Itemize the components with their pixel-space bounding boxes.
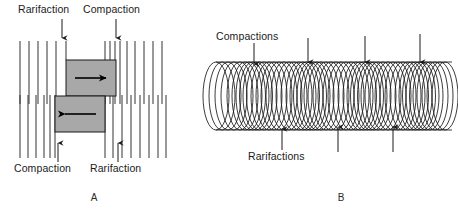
- panel-b-caption: B: [338, 192, 345, 203]
- coil-ring: [427, 62, 453, 130]
- compression-block-lower: [55, 96, 105, 132]
- panel-a-top-right-label: Compaction: [83, 3, 140, 15]
- compression-block-upper: [66, 60, 116, 96]
- panel-a-bottom-arrows: [58, 143, 118, 162]
- coil-ring: [276, 62, 302, 130]
- coil-ring: [375, 62, 401, 130]
- coil-ring: [385, 62, 411, 130]
- coil-ring: [251, 62, 277, 130]
- panel-b-compactions-label: Compactions: [216, 30, 278, 42]
- panel-b-rarifactions-label: Rarifactions: [248, 150, 305, 162]
- coil-ring: [333, 62, 359, 130]
- panel-a-bottom-right-label: Rarifaction: [90, 162, 141, 174]
- spring-coil: [203, 62, 458, 130]
- panel-a-top-arrows: [62, 19, 116, 38]
- coil-ring: [215, 62, 241, 130]
- panel-b: Compactions Rarifactions B: [203, 30, 458, 203]
- panel-b-rarifaction-arrows: [282, 127, 393, 152]
- panel-a-bottom-left-label: Compaction: [14, 162, 71, 174]
- longitudinal-wave-figure: Rarifaction Compaction: [0, 0, 458, 210]
- coil-ring: [261, 62, 287, 130]
- panel-a-caption: A: [91, 192, 98, 203]
- panel-b-compaction-arrows: [254, 34, 420, 64]
- panel-a-top-left-label: Rarifaction: [18, 3, 69, 15]
- coil-ring: [266, 62, 292, 130]
- coil-ring: [318, 62, 344, 130]
- panel-a: Rarifaction Compaction: [14, 3, 166, 203]
